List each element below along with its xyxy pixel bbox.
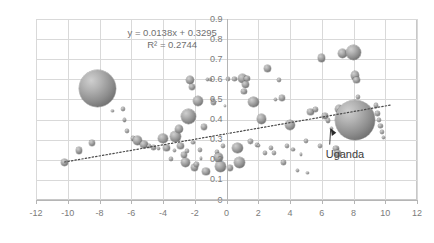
data-bubble [189, 84, 195, 90]
data-bubble [326, 118, 331, 123]
data-bubble [201, 124, 207, 130]
y-axis-tick-label: 0.4 [210, 114, 223, 124]
data-bubble [279, 95, 285, 101]
data-bubble [111, 110, 114, 113]
data-bubble [232, 143, 242, 153]
x-axis-tick-mark [195, 200, 196, 204]
data-bubble [353, 77, 360, 84]
gridline-vertical [417, 19, 418, 200]
y-axis-tick-label: 0.1 [210, 174, 223, 184]
data-bubble [380, 130, 384, 134]
data-bubble [181, 158, 190, 167]
y-axis-tick-label: 0.9 [210, 14, 223, 24]
data-bubble [175, 125, 183, 133]
data-bubble [76, 147, 82, 153]
data-bubble [257, 114, 267, 124]
data-bubble [177, 143, 183, 149]
data-bubble [374, 103, 378, 107]
gridline-vertical [322, 19, 323, 200]
data-bubble [378, 124, 383, 129]
data-bubble [300, 153, 303, 156]
data-bubble [263, 151, 267, 155]
data-bubble [173, 149, 176, 152]
data-bubble [221, 144, 225, 148]
x-axis-tick-mark [68, 200, 69, 204]
x-axis-tick-mark [417, 200, 418, 204]
data-bubble [272, 151, 276, 155]
gridline-vertical [290, 19, 291, 200]
uganda-annotation-label: Uganda [326, 148, 365, 160]
data-bubble [151, 145, 156, 150]
data-bubble [61, 159, 68, 166]
data-bubble [291, 148, 295, 152]
data-bubble [157, 147, 160, 150]
data-bubble [257, 144, 260, 147]
data-bubble [234, 157, 245, 168]
data-bubble [181, 109, 196, 124]
data-bubble [335, 100, 375, 140]
x-axis-tick-mark [290, 200, 291, 204]
data-bubble [277, 78, 281, 82]
x-axis-tick-mark [36, 200, 37, 204]
data-bubble [346, 45, 361, 60]
data-bubble [121, 107, 125, 111]
gridline-vertical [258, 19, 259, 200]
data-bubble [281, 160, 286, 165]
data-bubble [89, 140, 95, 146]
x-axis-tick-mark [258, 200, 259, 204]
y-axis-tick-label: 0.5 [210, 94, 223, 104]
data-bubble [241, 89, 246, 94]
x-axis-tick-mark [322, 200, 323, 204]
bubble-chart: 00.10.20.30.40.50.60.70.80.9 -12-10-8-6-… [0, 0, 434, 243]
data-bubble [264, 65, 271, 72]
data-bubble [248, 139, 253, 144]
data-bubble [123, 118, 126, 121]
data-bubble [198, 148, 202, 152]
y-axis-tick-label: 0.6 [210, 74, 223, 84]
data-bubble [232, 77, 236, 81]
x-axis-tick-mark [227, 200, 228, 204]
data-bubble [242, 81, 249, 88]
x-axis-tick-mark [385, 200, 386, 204]
data-bubble [193, 96, 204, 107]
data-bubble [330, 127, 334, 131]
data-bubble [313, 107, 318, 112]
gridline-vertical [36, 19, 37, 200]
x-axis-tick-mark [100, 200, 101, 204]
data-bubble [356, 95, 360, 99]
data-bubble [244, 76, 250, 82]
r-squared-value: R² = 0.2744 [112, 39, 232, 51]
x-axis-tick-mark [131, 200, 132, 204]
regression-equation-box: y = 0.0138x + 0.3295 R² = 0.2744 [112, 27, 232, 51]
data-bubble [274, 98, 277, 101]
data-bubble [269, 146, 274, 151]
data-bubble [285, 144, 289, 148]
data-bubble [306, 172, 308, 174]
gridline-vertical [385, 19, 386, 200]
x-axis-tick-mark [354, 200, 355, 204]
data-bubble [375, 111, 380, 116]
x-axis-tick-mark [163, 200, 164, 204]
data-bubble [169, 157, 173, 161]
x-axis-tick-label: 12 [397, 208, 434, 218]
y-axis-tick-label: 0.2 [210, 154, 223, 164]
data-bubble [285, 120, 295, 130]
data-bubble [296, 169, 299, 172]
data-bubble [186, 76, 194, 84]
data-bubble [163, 145, 170, 152]
data-bubble [377, 118, 381, 122]
data-bubble [79, 70, 116, 107]
data-bubble [318, 54, 326, 62]
data-bubble [185, 149, 189, 153]
gridline-vertical [100, 19, 101, 200]
data-bubble [194, 162, 199, 167]
regression-equation: y = 0.0138x + 0.3295 [112, 27, 232, 39]
data-bubble [125, 129, 129, 133]
data-bubble [202, 168, 210, 176]
data-bubble [304, 139, 308, 143]
gridline-vertical [68, 19, 69, 200]
y-axis-tick-label: 0.3 [210, 134, 223, 144]
y-axis-tick-label: 0.7 [210, 54, 223, 64]
data-bubble [248, 97, 258, 107]
data-bubble [158, 134, 167, 143]
